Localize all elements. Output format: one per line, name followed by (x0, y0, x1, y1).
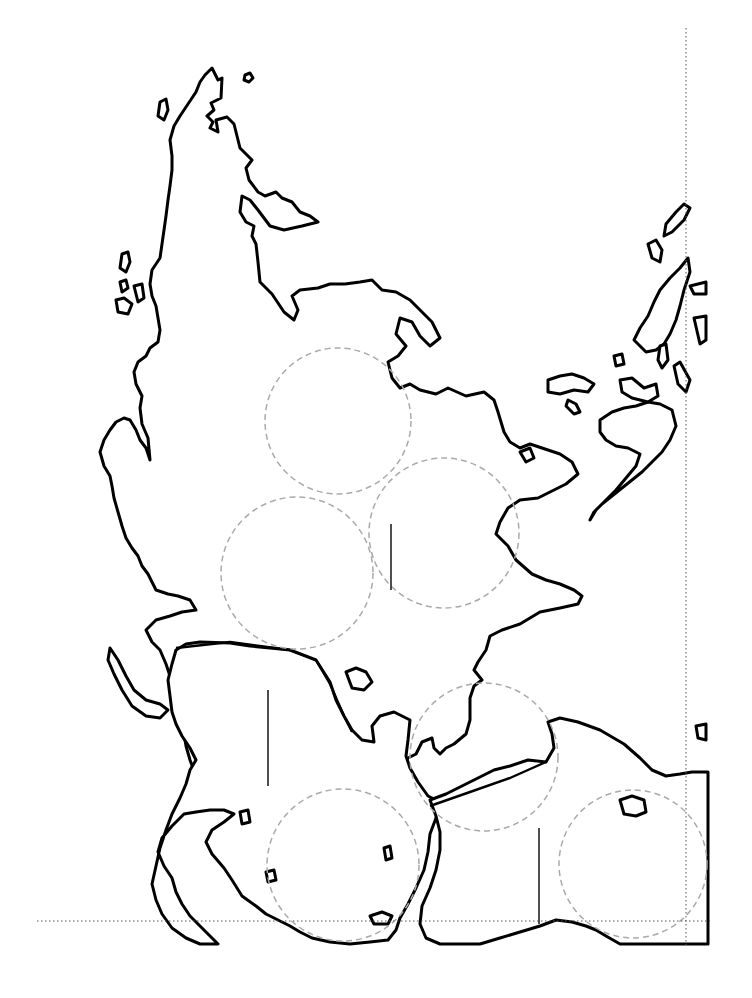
island (244, 73, 253, 82)
island (620, 378, 658, 402)
island (548, 374, 594, 394)
island (134, 284, 144, 302)
landmass-far-northeast (634, 258, 690, 352)
island (384, 846, 392, 860)
island (648, 240, 662, 262)
island (674, 362, 690, 392)
island (116, 298, 132, 314)
island (240, 810, 250, 824)
landmass-southeast (420, 718, 708, 944)
island (108, 648, 168, 718)
island (120, 252, 130, 272)
island (614, 354, 624, 366)
island (120, 280, 128, 292)
landmass-northeast (590, 402, 676, 520)
island (158, 99, 168, 120)
island (690, 282, 706, 294)
island (370, 912, 392, 924)
map-canvas (0, 0, 752, 998)
island (694, 316, 706, 344)
island (566, 400, 580, 414)
island (620, 796, 646, 816)
island (658, 344, 668, 368)
island (696, 724, 706, 740)
